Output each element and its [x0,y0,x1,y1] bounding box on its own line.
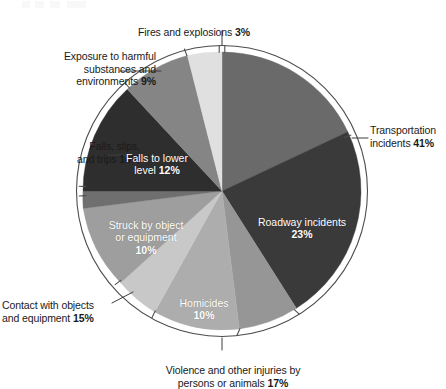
slice-label-falls-to-lower-level: Falls to lower level 12% [106,139,208,177]
callout-transportation-pct: 41% [413,137,434,149]
slice-label-roadway-text: Roadway incidents [258,216,346,228]
callout-exposure-pct: 9% [141,75,156,87]
callout-transportation-incidents: Transportation incidents 41% [370,112,446,149]
slice-label-roadway-pct: 23% [291,228,312,240]
callout-fires-pct: 3% [235,26,250,38]
callout-fires-and-explosions: Fires and explosions 3% [104,14,284,39]
slice-label-homicides: Homicides 10% [158,284,250,322]
callout-fires-text: Fires and explosions [138,26,235,38]
slice-label-falls-lower-pct: 12% [159,164,180,176]
callout-violence-and-other-injuries: Violence and other injuries by persons o… [138,352,328,389]
slice-label-homicides-pct: 10% [193,309,214,321]
callout-contact-with-objects: Contact with objects and equipment 15% [2,287,147,324]
callout-violence-pct: 17% [268,377,289,389]
callout-exposure-to-harmful-substances: Exposure to harmful substances and envir… [6,38,156,88]
slice-label-struck-pct: 10% [135,244,156,256]
slice-label-roadway-incidents: Roadway incidents 23% [246,203,358,241]
slice-label-struck-text: Struck by object or equipment [109,219,184,244]
slice-label-struck-by-object: Struck by object or equipment 10% [92,206,200,256]
slice-label-homicides-text: Homicides [179,297,228,309]
callout-contact-pct: 15% [73,312,94,324]
